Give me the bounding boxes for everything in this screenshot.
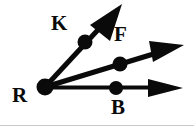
point-F-dot [113,57,128,72]
label-R: R [12,85,27,106]
point-K-dot [78,35,93,50]
label-F: F [114,24,127,45]
bottom-rule [0,125,194,126]
vertex-R-dot [37,79,54,96]
ray-angle-figure: R K F B [0,0,194,130]
label-B: B [111,97,125,118]
rays-canvas [0,0,194,130]
ray-RF-arrowhead [149,41,184,62]
point-B-dot [109,81,123,95]
label-K: K [51,13,67,34]
ray-RB-arrowhead [148,79,183,97]
